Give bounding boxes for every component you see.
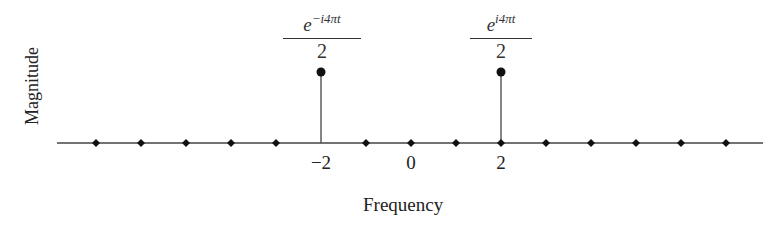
- stem-marker: [317, 68, 326, 77]
- zero-sample-marker: [452, 139, 460, 147]
- stems: [92, 68, 730, 148]
- zero-sample-marker: [272, 139, 280, 147]
- annotation-pos2: ei4πt 2: [470, 7, 532, 63]
- stem-marker: [497, 68, 506, 77]
- zero-sample-marker: [542, 139, 550, 147]
- zero-sample-marker: [587, 139, 595, 147]
- tick-label-2: 2: [496, 152, 506, 174]
- zero-sample-marker: [722, 139, 730, 147]
- zero-sample-marker: [227, 139, 235, 147]
- zero-sample-marker: [677, 139, 685, 147]
- annotation-neg2: e−i4πt 2: [283, 7, 361, 63]
- zero-sample-marker: [182, 139, 190, 147]
- zero-sample-marker: [92, 139, 100, 147]
- stem-plot: [0, 0, 778, 227]
- zero-sample-marker: [137, 139, 145, 147]
- x-axis-label: Frequency: [363, 194, 443, 216]
- zero-sample-marker: [497, 139, 505, 147]
- zero-sample-marker: [362, 139, 370, 147]
- tick-label-neg2: −2: [311, 152, 331, 174]
- y-axis-label: Magnitude: [22, 47, 43, 125]
- zero-sample-marker: [632, 139, 640, 147]
- zero-sample-marker: [407, 139, 415, 147]
- tick-label-0: 0: [406, 152, 416, 174]
